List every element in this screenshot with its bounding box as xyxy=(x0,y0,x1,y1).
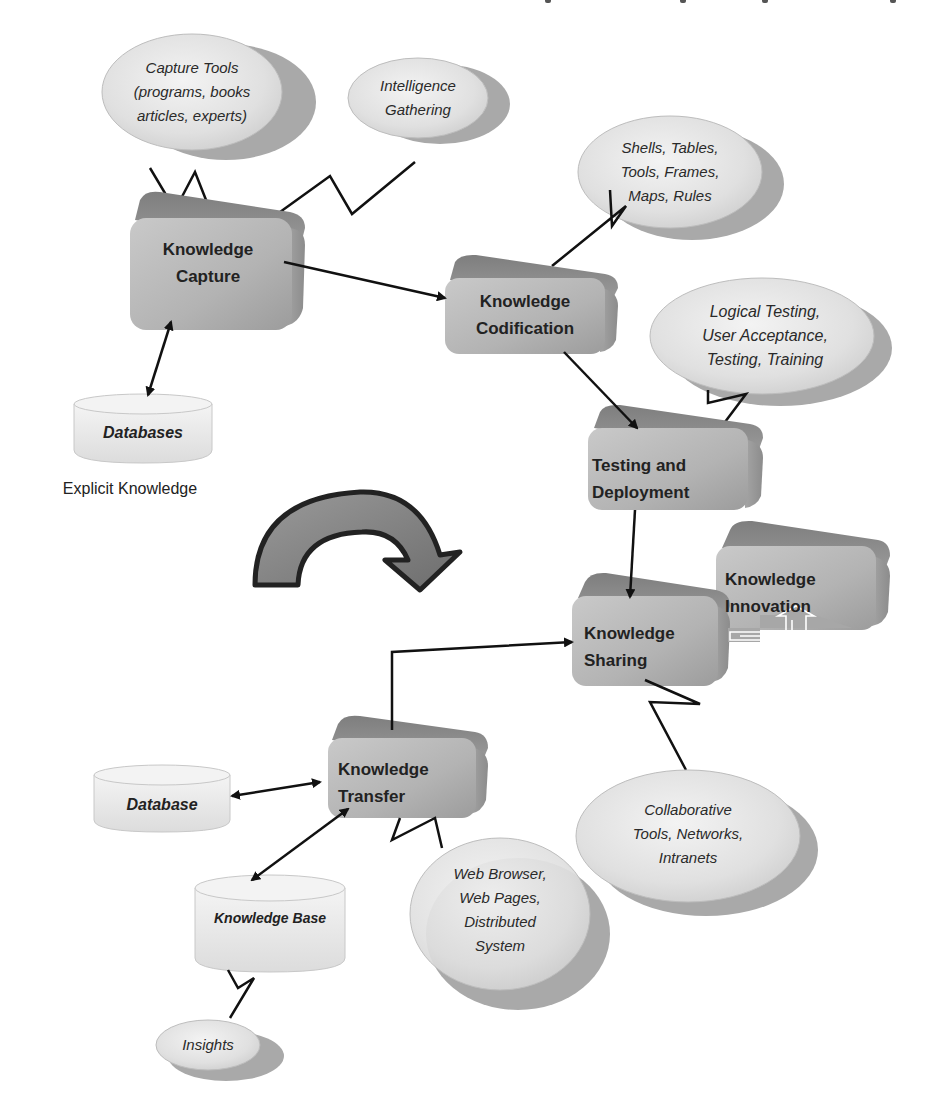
db-knowledge-base-label: Knowledge Base xyxy=(195,910,345,926)
box-knowledge-innovation-label: Knowledge Innovation xyxy=(725,566,845,620)
explicit-knowledge-caption: Explicit Knowledge xyxy=(30,480,230,498)
box-testing-deployment-label: Testing and Deployment xyxy=(592,452,712,506)
cropped-text-fragment xyxy=(890,0,896,3)
connector-collaborative xyxy=(645,680,700,770)
arrow-capture-databases xyxy=(148,322,171,395)
bubble-insights-label: Insights xyxy=(158,1033,258,1057)
arrow-database-transfer xyxy=(232,782,320,796)
curved-arrow-icon xyxy=(255,492,460,590)
arrow-transfer-to-sharing xyxy=(392,642,572,730)
db-databases-label: Databases xyxy=(74,424,212,442)
cropped-text-fragment xyxy=(680,0,686,3)
connector-insights xyxy=(228,970,254,1018)
box-knowledge-transfer-label: Knowledge Transfer xyxy=(338,756,458,810)
bubble-shells-label: Shells, Tables, Tools, Frames, Maps, Rul… xyxy=(580,136,760,208)
arrow-capture-to-codification xyxy=(284,262,445,298)
cropped-text-fragment xyxy=(762,0,768,3)
bubble-web-browser-label: Web Browser, Web Pages, Distributed Syst… xyxy=(418,862,582,958)
arrow-knowledgebase-transfer xyxy=(252,809,348,880)
db-database-label: Database xyxy=(94,796,230,814)
bubble-intelligence-label: Intelligence Gathering xyxy=(348,74,488,122)
box-knowledge-capture-label: Knowledge Capture xyxy=(138,236,278,290)
box-knowledge-sharing-label: Knowledge Sharing xyxy=(584,620,704,674)
box-knowledge-codification-label: Knowledge Codification xyxy=(452,288,598,342)
cropped-text-fragment xyxy=(545,0,551,3)
bubble-logical-testing-label: Logical Testing, User Acceptance, Testin… xyxy=(660,300,870,372)
knowledge-management-diagram: Capture Tools (programs, books articles,… xyxy=(0,0,938,1110)
connector-web-browser xyxy=(392,818,442,848)
bubble-capture-tools-label: Capture Tools (programs, books articles,… xyxy=(102,56,282,128)
bubble-collaborative-label: Collaborative Tools, Networks, Intranets xyxy=(588,798,788,870)
